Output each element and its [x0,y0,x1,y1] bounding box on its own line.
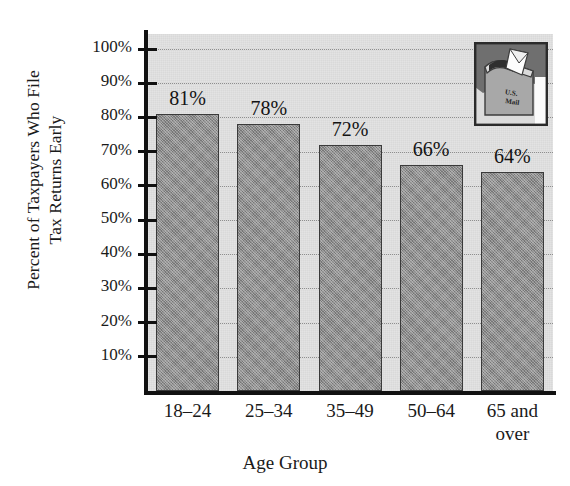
bar-value-label: 64% [473,145,552,168]
x-axis-category-label: 25–34 [222,399,315,422]
bar-chart: Percent of Taxpayers Who File Tax Return… [0,0,570,486]
y-tick-label-10: 10% [58,345,132,365]
x-axis-category-label: 65 and over [466,399,559,445]
y-tick-100 [138,48,157,51]
plot-area: 81%78%72%66%64% U.S. Mail [147,34,553,391]
y-tick-10 [138,355,157,358]
bar [237,124,300,391]
y-tick-label-20: 20% [58,311,132,331]
mailbox-icon: U.S. Mail [475,43,547,125]
bar [319,145,382,391]
y-tick-40 [138,253,157,256]
bar-value-label: 72% [311,118,390,141]
y-tick-30 [138,287,157,290]
y-tick-label-60: 60% [58,174,132,194]
x-axis-category-label: 50–64 [385,399,478,422]
bar-value-label: 81% [148,87,227,110]
x-axis-line [144,391,556,395]
y-tick-label-50: 50% [58,208,132,228]
x-axis-category-label: 18–24 [141,399,234,422]
y-axis-title-line-1: Percent of Taxpayers Who File [23,70,45,290]
y-tick-90 [138,82,157,85]
y-tick-50 [138,219,157,222]
bar [156,114,219,391]
y-tick-70 [138,150,157,153]
y-tick-20 [138,321,157,324]
mailbox-photo-inset: U.S. Mail [474,42,548,126]
bar [400,165,463,391]
x-axis-category-label: 35–49 [303,399,396,422]
bar-value-label: 66% [392,138,471,161]
y-tick-label-90: 90% [58,71,132,91]
y-tick-80 [138,116,157,119]
bar [481,172,544,391]
y-tick-label-80: 80% [58,105,132,125]
y-tick-label-70: 70% [58,140,132,160]
y-tick-label-30: 30% [58,276,132,296]
y-tick-label-100: 100% [58,37,132,57]
bar-value-label: 78% [229,97,308,120]
y-tick-label-40: 40% [58,242,132,262]
y-tick-60 [138,184,157,187]
x-axis-title: Age Group [0,452,570,474]
